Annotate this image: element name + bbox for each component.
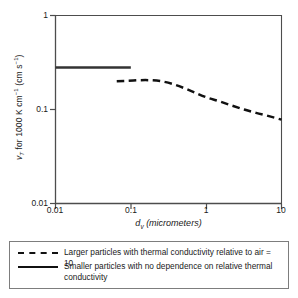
- dashed-line-icon: [18, 247, 58, 259]
- legend-label-smaller-particles: Smaller particles with no dependence on …: [64, 261, 282, 283]
- legend: Larger particles with thermal conductivi…: [9, 241, 289, 289]
- x-axis-label-rest: (micrometers): [144, 218, 202, 228]
- x-tick-label-10: 10: [276, 205, 285, 215]
- legend-entry-smaller-particles: Smaller particles with no dependence on …: [18, 261, 282, 283]
- x-axis-ticks: [56, 204, 282, 210]
- x-tick-label-0.01: 0.01: [47, 205, 64, 215]
- y-tick-label-1: 1: [18, 10, 48, 20]
- x-axis-label: dv (micrometers): [55, 218, 282, 230]
- x-tick-label-1: 1: [204, 205, 209, 215]
- x-tick-label-0.1: 0.1: [125, 205, 137, 215]
- solid-line-icon: [18, 261, 58, 273]
- chart-area: vT for 1000 K cm−1 (cm s−1): [0, 0, 298, 236]
- y-tick-label-0.1: 0.1: [18, 104, 48, 114]
- series-dashed-larger-particles: [117, 80, 282, 120]
- y-tick-label-0.01: 0.01: [12, 198, 48, 208]
- figure-root: vT for 1000 K cm−1 (cm s−1): [0, 0, 298, 298]
- y-axis-ticks: [50, 16, 56, 204]
- axis-spines: [56, 15, 283, 204]
